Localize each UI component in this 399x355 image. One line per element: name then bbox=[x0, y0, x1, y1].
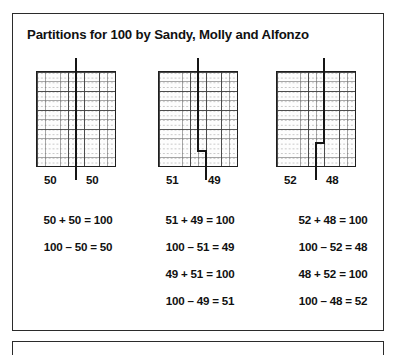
page-title: Partitions for 100 by Sandy, Molly and A… bbox=[27, 27, 309, 42]
partition-left-label: 52 bbox=[284, 174, 296, 186]
partition-column-50-50: 50 50 50 + 50 = 100 100 – 50 = 50 bbox=[19, 58, 137, 180]
partition-column-51-49: 51 49 51 + 49 = 100 100 – 51 = 49 49 + 5… bbox=[141, 58, 259, 180]
equation-row: 48 + 52 = 100 bbox=[274, 260, 392, 287]
equation-row: 100 – 51 = 49 bbox=[141, 233, 259, 260]
partition-labels: 50 50 bbox=[36, 174, 120, 192]
partition-right-label: 48 bbox=[326, 174, 338, 186]
next-panel bbox=[12, 341, 384, 355]
partition-labels: 51 49 bbox=[158, 174, 242, 192]
equation-list: 51 + 49 = 100 100 – 51 = 49 49 + 51 = 10… bbox=[141, 206, 259, 314]
partitions-panel: Partitions for 100 by Sandy, Molly and A… bbox=[12, 13, 384, 331]
partition-labels: 52 48 bbox=[276, 174, 360, 192]
equation-row: 100 – 50 = 50 bbox=[19, 233, 137, 260]
equation-list: 50 + 50 = 100 100 – 50 = 50 bbox=[19, 206, 137, 260]
hundred-square-52-48: 52 48 bbox=[276, 58, 360, 180]
hundred-square-51-49: 51 49 bbox=[158, 58, 242, 180]
partition-left-label: 50 bbox=[44, 174, 56, 186]
equation-row: 51 + 49 = 100 bbox=[141, 206, 259, 233]
partition-column-52-48: 52 48 52 + 48 = 100 100 – 52 = 48 48 + 5… bbox=[270, 58, 388, 180]
partition-left-label: 51 bbox=[166, 174, 178, 186]
equation-row: 52 + 48 = 100 bbox=[274, 206, 392, 233]
partition-right-label: 49 bbox=[208, 174, 220, 186]
equation-row: 100 – 52 = 48 bbox=[274, 233, 392, 260]
divider-segment bbox=[323, 58, 325, 144]
partition-right-label: 50 bbox=[86, 174, 98, 186]
equation-row: 100 – 49 = 51 bbox=[141, 287, 259, 314]
divider-segment bbox=[75, 58, 77, 180]
equation-row: 100 – 48 = 52 bbox=[274, 287, 392, 314]
equation-row: 49 + 51 = 100 bbox=[141, 260, 259, 287]
equation-row: 50 + 50 = 100 bbox=[19, 206, 137, 233]
divider-segment bbox=[197, 58, 199, 152]
hundred-square-50-50: 50 50 bbox=[36, 58, 120, 180]
equation-list: 52 + 48 = 100 100 – 52 = 48 48 + 52 = 10… bbox=[274, 206, 392, 314]
